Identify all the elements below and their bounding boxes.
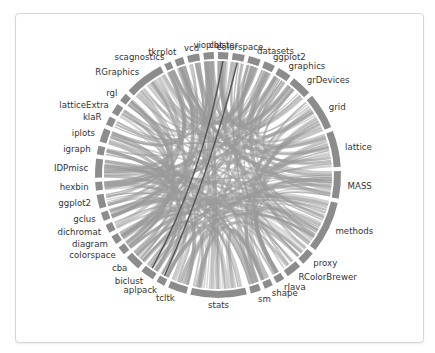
segment-arc-mass[interactable] [332, 171, 341, 199]
segment-label-latticeextra: latticeExtra [59, 100, 108, 110]
segment-label-vcd: vcd [184, 43, 199, 53]
segment-arc-iplots[interactable] [100, 128, 111, 143]
segment-label-aplpack: aplpack [124, 285, 158, 295]
segment-label-hexbin: hexbin [60, 182, 89, 192]
segment-arc-colorspace[interactable] [119, 243, 130, 254]
segment-arc-idpmisc[interactable] [95, 159, 103, 178]
segment-arc-stats[interactable] [190, 288, 246, 298]
segment-arc-rjava[interactable] [273, 273, 284, 283]
segment-arc-dichromat[interactable] [106, 222, 116, 233]
segment-label-stats: stats [208, 300, 229, 310]
chord-diagram: vioplotclustercolorspacedatasetsggplot2g… [0, 0, 435, 353]
segment-label-mass: MASS [348, 181, 372, 191]
segment-label-grid: grid [329, 102, 346, 112]
segment-label-colorspace: colorspace [69, 250, 115, 260]
segment-label-diagram: diagram [72, 239, 108, 249]
segment-arc-shape[interactable] [262, 279, 273, 289]
segment-label-igraph: igraph [63, 144, 91, 154]
segment-label-rgl: rgl [106, 88, 117, 98]
segment-arc-igraph[interactable] [97, 146, 106, 156]
segment-label-biclust: biclust [115, 276, 144, 286]
segment-label-methods: methods [336, 226, 374, 236]
segment-label-proxy: proxy [313, 258, 337, 268]
segment-label-rgraphics: RGraphics [95, 67, 139, 77]
segment-arc-scagnostics[interactable] [164, 61, 173, 70]
segment-arc-datasets[interactable] [247, 56, 260, 66]
segment-label-shape: shape [272, 288, 298, 298]
segment-label-graphics: graphics [289, 61, 326, 71]
segment-label-grdevices: grDevices [307, 75, 350, 85]
segment-arc-biclust[interactable] [141, 266, 156, 280]
segment-label-tkrplot: tkrplot [148, 47, 177, 57]
segment-label-rcolorbrewer: RColorBrewer [298, 272, 357, 282]
segment-arc-aplpack[interactable] [157, 275, 168, 285]
segment-label-sm: sm [258, 294, 271, 304]
segment-arc-ggplot2[interactable] [262, 61, 275, 72]
segment-label-gclus: gclus [73, 214, 96, 224]
segment-arc-vcd[interactable] [187, 53, 200, 62]
segment-arc-colorspace[interactable] [232, 53, 245, 62]
segment-arc-diagram[interactable] [111, 233, 121, 244]
segment-arc-gclus[interactable] [101, 211, 110, 221]
segment-arc-klar[interactable] [106, 117, 116, 128]
segment-arc-tkrplot[interactable] [175, 57, 185, 66]
segment-arc-sm[interactable] [249, 284, 261, 294]
segment-arc-cluster[interactable] [218, 52, 228, 59]
segment-label-klar: klaR [83, 112, 102, 122]
segment-label-cba: cba [112, 263, 127, 273]
segment-label-lattice: lattice [345, 142, 372, 152]
segment-arc-vioplot[interactable] [203, 52, 214, 60]
segment-arc-rgl[interactable] [120, 94, 131, 105]
segment-label-tcltk: tcltk [156, 293, 175, 303]
segment-label-ggplot2: ggplot2 [58, 198, 91, 208]
chords-layer [104, 61, 332, 289]
segment-label-iplots: iplots [72, 128, 96, 138]
segment-label-dichromat: dichromat [57, 227, 101, 237]
segment-arc-ggplot2[interactable] [97, 194, 107, 209]
segment-label-idpmisc: IDPmisc [54, 163, 89, 173]
segment-arc-hexbin[interactable] [95, 182, 103, 191]
